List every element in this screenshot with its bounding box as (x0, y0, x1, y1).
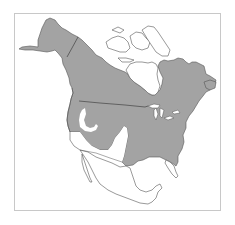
range-map (0, 0, 235, 225)
map-svg (0, 0, 235, 225)
